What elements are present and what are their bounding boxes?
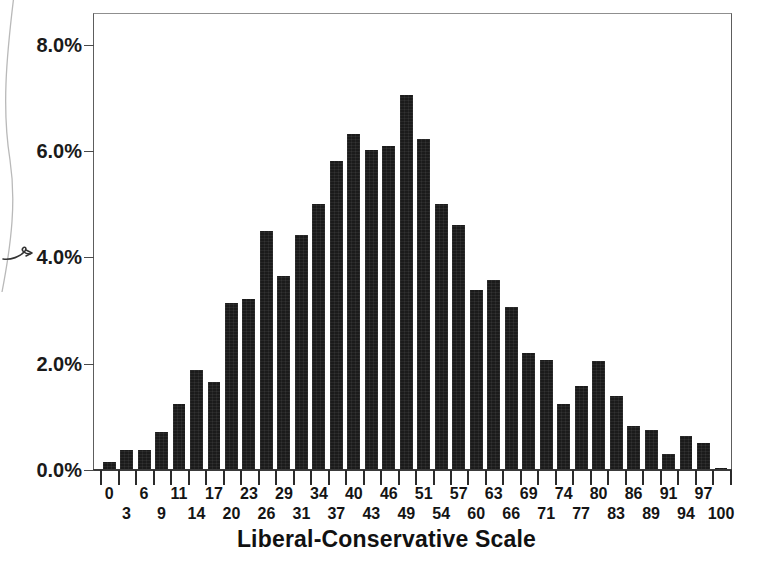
bar (662, 454, 675, 470)
x-tick-label: 0 (105, 486, 114, 502)
x-tick-label: 86 (625, 486, 643, 502)
x-tick-label: 43 (362, 506, 380, 522)
x-tick-label: 51 (415, 486, 433, 502)
bar (173, 404, 186, 470)
x-tick-label: 66 (502, 506, 520, 522)
x-tick-label: 60 (467, 506, 485, 522)
bar (592, 361, 605, 470)
x-tick-label: 71 (537, 506, 555, 522)
x-tick-label: 77 (572, 506, 590, 522)
bar (540, 360, 553, 470)
x-tick-label: 54 (432, 506, 450, 522)
bar (435, 204, 448, 470)
bar (260, 231, 273, 470)
bar (610, 396, 623, 470)
bar (417, 139, 430, 470)
x-tick-label: 69 (520, 486, 538, 502)
x-tick-label: 37 (327, 506, 345, 522)
bar (557, 404, 570, 470)
bar (330, 161, 343, 470)
bar (225, 303, 238, 470)
x-tick-label: 83 (607, 506, 625, 522)
bar (138, 450, 151, 470)
y-tick-mark-4 (84, 45, 94, 46)
x-tick-label: 49 (397, 506, 415, 522)
histogram-figure: 0369111417202326293134374043464951545760… (0, 0, 773, 563)
x-tick-label: 74 (555, 486, 573, 502)
x-tick-label: 40 (345, 486, 363, 502)
bar (155, 432, 168, 470)
bar (680, 436, 693, 470)
x-tick-label: 97 (695, 486, 713, 502)
bar (242, 299, 255, 470)
y-tick-label-2: 4.0% (0, 247, 82, 267)
bar (277, 276, 290, 470)
bar-series (93, 13, 732, 470)
bar (697, 443, 710, 470)
x-tick-label: 100 (708, 506, 735, 522)
x-tick-label: 57 (450, 486, 468, 502)
x-tick-label: 63 (485, 486, 503, 502)
x-tick-label: 17 (205, 486, 223, 502)
y-tick-label-1: 2.0% (0, 354, 82, 374)
bar (190, 370, 203, 470)
bar (312, 204, 325, 470)
x-tick-label: 94 (677, 506, 695, 522)
bar (627, 426, 640, 470)
x-tick-label: 11 (171, 486, 188, 502)
x-tick-label: 9 (157, 506, 166, 522)
bar (400, 95, 413, 470)
x-tick-label: 26 (258, 506, 276, 522)
x-tick-label: 3 (122, 506, 131, 522)
bar (645, 430, 658, 470)
bar (505, 307, 518, 470)
bar (295, 235, 308, 470)
x-tick-label: 34 (310, 486, 328, 502)
x-tick-label: 6 (140, 486, 149, 502)
bar (382, 146, 395, 470)
bar (522, 353, 535, 470)
x-tick-label: 14 (188, 506, 206, 522)
y-tick-mark-3 (84, 151, 94, 152)
x-tick-label: 91 (660, 486, 678, 502)
y-tick-label-4: 8.0% (0, 35, 82, 55)
x-tick-label: 46 (380, 486, 398, 502)
y-tick-mark-2 (84, 257, 94, 258)
bar (208, 382, 221, 470)
bar (452, 225, 465, 471)
bar (365, 150, 378, 470)
y-tick-mark-0 (84, 470, 94, 471)
bar (575, 386, 588, 470)
y-tick-label-0: 0.0% (0, 460, 82, 480)
x-axis-title: Liberal-Conservative Scale (0, 526, 773, 553)
bar (487, 280, 500, 470)
y-tick-mark-1 (84, 364, 94, 365)
x-tick-label: 31 (292, 506, 310, 522)
x-tick-label: 29 (275, 486, 293, 502)
x-axis-tick-labels: 0369111417202326293134374043464951545760… (93, 470, 732, 520)
x-tick-label: 80 (590, 486, 608, 502)
x-tick-label: 20 (223, 506, 241, 522)
bar (120, 450, 133, 470)
x-tick-label: 89 (642, 506, 660, 522)
y-tick-label-3: 6.0% (0, 141, 82, 161)
bar (347, 134, 360, 470)
bar (470, 290, 483, 470)
x-tick-label: 23 (240, 486, 258, 502)
